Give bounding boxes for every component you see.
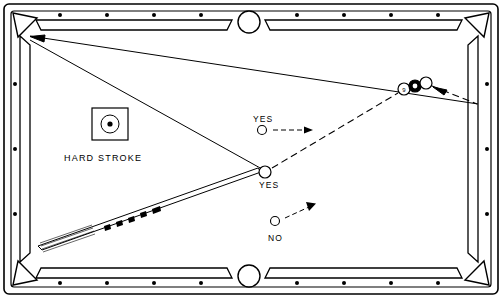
- table-frame: [4, 4, 498, 294]
- diamond-bottom-2: [105, 281, 109, 285]
- hard-stroke-label: HARD STROKE: [64, 153, 142, 163]
- diamond-top-7: [389, 13, 393, 17]
- diamond-top-1: [58, 13, 62, 17]
- diamond-top-2: [105, 13, 109, 17]
- diamond-bottom-7: [389, 281, 393, 285]
- cushion-top-left: [36, 20, 232, 30]
- cushion-bottom-right: [265, 268, 462, 278]
- cushion-right: [468, 36, 478, 262]
- diamond-bottom-6: [342, 281, 346, 285]
- diamond-bottom-4: [199, 281, 203, 285]
- diamond-top-5: [295, 13, 299, 17]
- diamond-right-2: [485, 147, 489, 151]
- pocket-bottom-side: [238, 265, 260, 287]
- yes-upper-dot: [258, 126, 267, 135]
- no-label: NO: [268, 233, 283, 243]
- diamond-left-3: [13, 212, 17, 216]
- cue-ball: [259, 166, 271, 178]
- yes-upper-label: YES: [253, 114, 273, 124]
- pool-table-diagram: 9 HARD STROKE YES YES NO: [0, 0, 502, 298]
- hard-stroke-contact-dot: [107, 121, 112, 126]
- diamond-right-1: [485, 82, 489, 86]
- diamond-bottom-8: [436, 281, 440, 285]
- diamond-right-3: [485, 212, 489, 216]
- ball-two-highlight: [413, 84, 418, 89]
- yes-lower-label: YES: [259, 180, 279, 190]
- diamond-bottom-5: [295, 281, 299, 285]
- diamond-top-3: [152, 13, 156, 17]
- diamond-left-2: [13, 147, 17, 151]
- hard-stroke-box: [92, 108, 128, 140]
- cushion-bottom-left: [36, 268, 232, 278]
- diamond-top-6: [342, 13, 346, 17]
- diamond-top-4: [199, 13, 203, 17]
- cushion-left: [20, 36, 30, 262]
- cushion-top-right: [265, 20, 462, 30]
- diamond-bottom-3: [152, 281, 156, 285]
- pool-diagram-container: 9 HARD STROKE YES YES NO: [0, 0, 502, 298]
- diamond-top-8: [436, 13, 440, 17]
- table-rail-inner-edge: [11, 11, 491, 287]
- diamond-left-1: [13, 82, 17, 86]
- ball-three: [420, 77, 432, 89]
- diamond-bottom-1: [58, 281, 62, 285]
- pocket-top-side: [238, 11, 260, 33]
- no-dot: [271, 217, 280, 226]
